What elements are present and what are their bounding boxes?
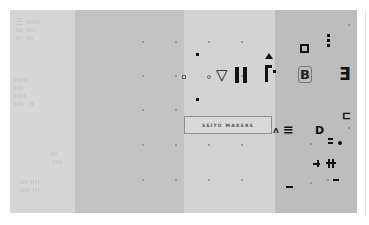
grid-dot	[241, 144, 243, 146]
small-mark-icon: ʌ	[273, 126, 279, 135]
square-dot	[196, 98, 199, 101]
hollow-circle-marker	[207, 75, 211, 79]
panel-3	[184, 10, 275, 213]
triangle-down-icon: ▽	[216, 68, 228, 83]
grid-dot	[348, 24, 350, 26]
faint-text-block: ııı ıııı ıııı ııı	[20, 178, 40, 194]
label-text: SEITO MAKERS	[202, 123, 254, 128]
grid-dot	[175, 144, 177, 146]
panel-1: 三 ıııııı ııı ıııı ııı ııı ıııııı ıııı ıı…	[10, 10, 75, 213]
dash-icon	[328, 138, 333, 140]
grid-dot	[310, 143, 312, 145]
panel-2	[75, 10, 184, 213]
d-letter-icon: D	[315, 125, 324, 136]
square-dot	[327, 34, 330, 37]
divider-line	[365, 10, 366, 215]
faint-text-block: ıııııı ıııı ııııı ıııı ıı	[14, 76, 34, 108]
grid-dot	[310, 182, 312, 184]
grid-dot	[241, 179, 243, 181]
h-shape-icon	[326, 162, 336, 164]
square-dot	[273, 70, 276, 73]
pause-bar-icon	[243, 67, 247, 83]
faint-text-block: 三 ıııııı ııı ıııı ııı ııı	[16, 18, 41, 42]
grid-dot	[348, 127, 350, 129]
grid-dot	[142, 41, 144, 43]
square-dot	[327, 39, 330, 42]
grid-dot	[142, 109, 144, 111]
dash-icon	[333, 179, 339, 181]
grid-dot	[208, 41, 210, 43]
b-letter-frame: B	[298, 66, 312, 83]
grid-dot	[142, 75, 144, 77]
grid-dot	[175, 179, 177, 181]
bar-cap-icon	[268, 65, 272, 68]
square-dot	[327, 44, 330, 47]
grid-dot	[175, 41, 177, 43]
square-dot	[196, 53, 199, 56]
grid-dot	[327, 179, 329, 181]
b-letter-icon: B	[300, 68, 310, 81]
circle-dot-icon	[338, 141, 342, 145]
hollow-square-icon	[300, 44, 309, 53]
hook-icon: ㄷ	[341, 111, 352, 123]
pause-bar-icon	[235, 67, 239, 83]
grid-dot	[175, 109, 177, 111]
plus-bar-icon	[317, 160, 319, 167]
grid-dot	[208, 179, 210, 181]
faint-text-block: ııı ıııı	[50, 150, 63, 166]
grid-dot	[208, 144, 210, 146]
label-box: SEITO MAKERS	[184, 116, 272, 134]
canvas: 三 ıııııı ııı ıııı ııı ııı ıııııı ıııı ıı…	[10, 10, 357, 213]
hollow-square-marker	[182, 75, 186, 79]
dash-icon	[286, 186, 293, 188]
dash-icon	[328, 142, 333, 144]
triangle-up-icon	[265, 53, 273, 59]
grid-dot	[241, 41, 243, 43]
three-lines-icon: ≡	[283, 123, 294, 136]
grid-dot	[175, 75, 177, 77]
grid-dot	[142, 179, 144, 181]
grid-dot	[142, 144, 144, 146]
reversed-three-icon: Ǝ	[339, 66, 351, 83]
